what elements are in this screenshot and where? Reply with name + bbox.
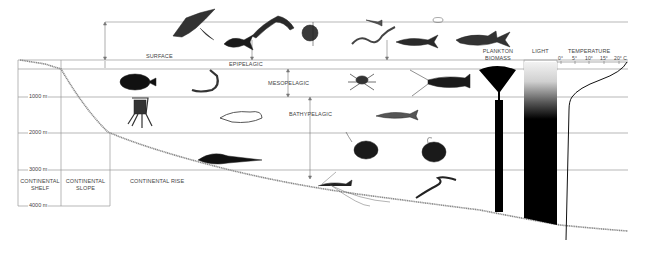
black-anglerfish-icon — [120, 74, 150, 90]
zone-label-epipelagic: EPIPELAGIC — [229, 61, 263, 68]
zone-label-bathypelagic: BATHYPELAGIC — [289, 111, 332, 118]
zone-label-mesopelagic: MESOPELAGIC — [268, 80, 309, 87]
oarfish-icon — [352, 27, 395, 44]
shrimp-icon — [192, 70, 218, 92]
rattail-fish-icon — [198, 154, 262, 164]
temp-tick-0: 0° — [558, 55, 563, 62]
depth-label-2000: 2000 m — [28, 129, 48, 136]
organisms — [120, 9, 510, 206]
region-label-shelf: CONTINENTAL SHELF — [19, 178, 61, 192]
column-label-plankton: PLANKTON BIOMASS — [478, 48, 518, 62]
region-label-rise: CONTINENTAL RISE — [130, 178, 184, 185]
shark-icon — [456, 31, 510, 47]
temperature-curve — [566, 62, 627, 240]
cuttlefish-icon — [220, 112, 262, 123]
tuna-icon — [396, 35, 438, 48]
zone-label-surface: SURFACE — [146, 53, 173, 60]
dragonfish-icon — [376, 110, 418, 120]
marlin-icon — [252, 16, 294, 38]
column-label-light: LIGHT — [532, 48, 549, 55]
temp-tick-15: 15° — [600, 55, 608, 62]
plankton-biomass-column — [479, 66, 516, 212]
temp-tick-5: 5° — [572, 55, 577, 62]
light-column — [524, 62, 557, 225]
ocean-zone-diagram — [0, 0, 646, 254]
temp-tick-20: 20° C — [614, 55, 627, 62]
manta-ray-icon — [173, 9, 215, 40]
depth-label-4000: 4000 m — [28, 202, 48, 209]
sunfish-icon — [302, 25, 318, 41]
spider-crab-icon — [348, 74, 376, 90]
region-label-slope: CONTINENTAL SLOPE — [62, 178, 109, 192]
anglerfish-icon — [354, 141, 378, 159]
temp-tick-10: 10° — [585, 55, 593, 62]
jack-fish-icon — [224, 35, 253, 50]
lobster-icon — [428, 74, 470, 88]
gulper-eel-icon — [416, 177, 456, 198]
column-label-temperature: TEMPERATURE — [568, 48, 610, 55]
depth-label-1000: 1000 m — [28, 93, 48, 100]
depth-label-3000: 3000 m — [28, 166, 48, 173]
deep-sea-anglerfish-icon — [422, 142, 446, 162]
small-fish-icon — [366, 20, 382, 26]
